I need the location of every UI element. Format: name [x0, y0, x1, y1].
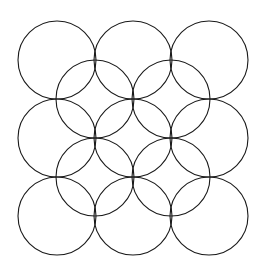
- figure-root: [0, 0, 262, 275]
- canvas-background: [0, 0, 262, 275]
- overlapping-circles-pattern: [0, 0, 262, 275]
